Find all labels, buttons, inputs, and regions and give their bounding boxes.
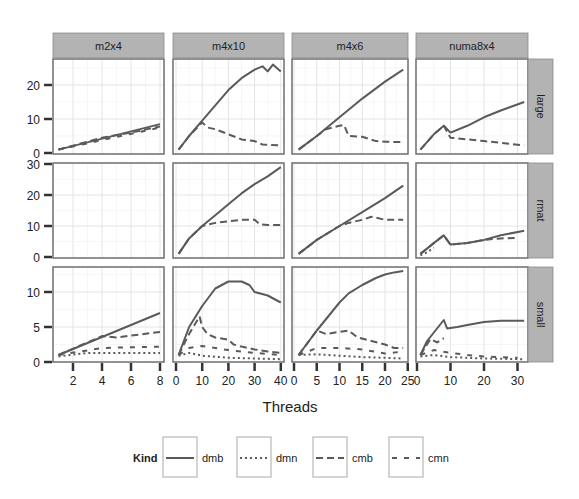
svg-text:0: 0 [173,374,180,388]
legend-title: Kind [133,452,157,464]
svg-text:10: 10 [333,374,347,388]
strip-m2x4: m2x4 [53,33,164,58]
svg-text:30: 30 [27,158,41,172]
svg-text:8: 8 [157,374,164,388]
panel-m4x6-small [292,267,408,362]
column-strips: m2x4m4x10m4x6numa8x4 [53,33,528,58]
svg-text:10: 10 [27,220,41,234]
svg-text:20: 20 [27,189,41,203]
svg-text:20: 20 [27,79,41,93]
svg-text:10: 10 [27,286,41,300]
x-axis-title: Threads [262,398,317,415]
panel-m4x10-rmat [173,163,284,258]
strip-large: large [528,59,553,154]
svg-text:dmb: dmb [202,452,223,464]
y-axis-small: 0510 [27,286,52,370]
svg-text:0: 0 [291,374,298,388]
svg-text:30: 30 [511,374,525,388]
legend: Kinddmbdmncmbcmn [133,437,449,477]
panel-m4x6-rmat [292,163,408,258]
y-axes: 0102001020300510 [27,79,52,370]
svg-text:m4x10: m4x10 [212,40,245,52]
svg-text:40: 40 [274,374,288,388]
strip-rmat: rmat [528,163,553,258]
svg-text:0: 0 [33,356,40,370]
row-strips: largermatsmall [528,59,553,362]
svg-text:20: 20 [222,374,236,388]
svg-text:15: 15 [356,374,370,388]
svg-text:numa8x4: numa8x4 [449,40,494,52]
panel-numa8x4-rmat [416,163,528,258]
svg-text:0: 0 [414,374,421,388]
svg-text:20: 20 [378,374,392,388]
x-axes: 246801020304005101520250102030 [70,363,525,388]
panel-m4x6-large [292,59,408,154]
svg-text:cmn: cmn [428,452,449,464]
svg-text:10: 10 [444,374,458,388]
strip-m4x10: m4x10 [173,33,284,58]
svg-text:4: 4 [99,374,106,388]
strip-small: small [528,267,553,362]
panel-m2x4-small [53,267,164,362]
legend-item-cmn: cmn [389,437,449,477]
x-axis-m4x6: 0510152025 [291,363,415,388]
svg-text:2: 2 [70,374,77,388]
svg-text:dmn: dmn [276,452,297,464]
svg-text:m4x6: m4x6 [337,40,364,52]
x-axis-m2x4: 2468 [70,363,164,388]
svg-text:large: large [535,94,547,118]
panel-m4x10-small [173,267,284,362]
legend-item-dmb: dmb [163,437,223,477]
svg-text:m2x4: m2x4 [95,40,122,52]
svg-text:20: 20 [477,374,491,388]
svg-text:small: small [535,302,547,328]
x-axis-m4x10: 010203040 [173,363,288,388]
svg-text:0: 0 [33,251,40,265]
panel-m4x10-large [173,59,284,154]
strip-numa8x4: numa8x4 [416,33,528,58]
panel-numa8x4-small [416,267,528,362]
svg-text:30: 30 [248,374,262,388]
svg-text:6: 6 [128,374,135,388]
legend-item-dmn: dmn [237,437,297,477]
svg-text:10: 10 [196,374,210,388]
strip-m4x6: m4x6 [292,33,408,58]
svg-text:cmb: cmb [352,452,373,464]
panel-grid [53,59,528,362]
panel-m2x4-rmat [53,163,164,258]
panel-m2x4-large [53,59,164,154]
panel-numa8x4-large [416,59,528,154]
svg-text:5: 5 [33,321,40,335]
y-axis-large: 01020 [27,79,52,161]
y-axis-rmat: 0102030 [27,158,52,265]
svg-text:10: 10 [27,113,41,127]
svg-text:rmat: rmat [535,200,547,222]
legend-item-cmb: cmb [313,437,373,477]
svg-text:5: 5 [313,374,320,388]
faceted-line-chart: m2x4m4x10m4x6numa8x4 largermatsmall 0102… [0,0,579,499]
x-axis-numa8x4: 0102030 [414,363,525,388]
